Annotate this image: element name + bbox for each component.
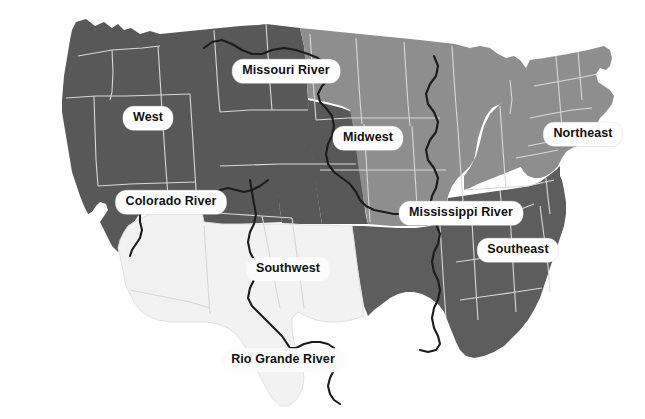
- region-label-southwest[interactable]: Southwest: [246, 257, 330, 281]
- region-southwest: [118, 196, 364, 406]
- region-label-northeast[interactable]: Northeast: [543, 122, 622, 146]
- river-label-mississippi[interactable]: Mississippi River: [399, 201, 523, 225]
- river-label-rio-grande[interactable]: Rio Grande River: [221, 348, 345, 372]
- river-label-missouri[interactable]: Missouri River: [232, 59, 340, 83]
- region-label-midwest[interactable]: Midwest: [333, 126, 403, 150]
- river-label-colorado[interactable]: Colorado River: [116, 190, 227, 214]
- us-regions-map: West Midwest Northeast Southeast Southwe…: [0, 0, 645, 419]
- region-label-southeast[interactable]: Southeast: [477, 238, 558, 262]
- region-label-west[interactable]: West: [123, 106, 173, 130]
